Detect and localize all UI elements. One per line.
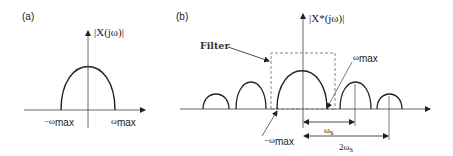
alias-spectrum-minus-ws bbox=[236, 82, 266, 109]
diagram-canvas: (a) |X(jω)| −ωmax ωmax (b) |X*(jω)| Filt… bbox=[0, 0, 453, 156]
pos-wmax-label: ωmax bbox=[353, 52, 378, 64]
magnitude-axis-label: |X(jω)| bbox=[94, 26, 124, 39]
neg-wmax-tick-label: −ωmax bbox=[44, 116, 74, 128]
panel-b: (b) |X*(jω)| Filter −ωmax ωmax ωs 2ωs bbox=[176, 11, 430, 154]
two-ws-label: 2ωs bbox=[339, 142, 353, 154]
alias-spectrum-plus-ws bbox=[340, 82, 371, 109]
ws-label: ωs bbox=[324, 125, 334, 137]
sampling-spectrum-figure: (a) |X(jω)| −ωmax ωmax (b) |X*(jω)| Filt… bbox=[0, 0, 453, 156]
panel-b-label: (b) bbox=[176, 11, 188, 22]
sampled-magnitude-axis-label: |X*(jω)| bbox=[309, 12, 344, 25]
neg-wmax-label: −ωmax bbox=[264, 135, 294, 147]
panel-a-label: (a) bbox=[22, 11, 34, 22]
neg-wmax-pointer-arrow bbox=[262, 111, 277, 136]
filter-pointer-arrow bbox=[228, 47, 269, 61]
filter-label: Filter bbox=[200, 40, 230, 51]
panel-a: (a) |X(jω)| −ωmax ωmax bbox=[22, 11, 145, 128]
pos-wmax-tick-label: ωmax bbox=[111, 116, 136, 128]
alias-spectrum-plus-2ws bbox=[377, 94, 402, 109]
alias-spectrum-minus-2ws bbox=[203, 94, 229, 109]
baseband-spectrum bbox=[277, 71, 327, 109]
